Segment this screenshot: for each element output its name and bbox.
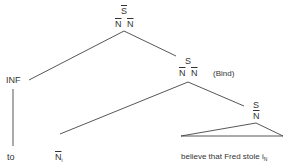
node-s-mid-feature-2: N bbox=[191, 68, 198, 78]
node-s-low-label: S bbox=[253, 100, 259, 110]
leaf-to: to bbox=[7, 152, 15, 162]
branch-root-to-inf bbox=[29, 31, 124, 80]
branch-s-to-s-low bbox=[188, 82, 244, 106]
node-inf-label: INF bbox=[6, 75, 21, 85]
feature-n-bar: N bbox=[253, 111, 260, 121]
node-root-feature-1: N bbox=[115, 19, 122, 29]
feature-n-bar: N bbox=[127, 19, 134, 29]
leaf-clause-subscript: N bbox=[264, 156, 268, 162]
leaf-clause-text: believe that Fred stole i bbox=[181, 152, 264, 161]
bind-annotation: (Bind) bbox=[213, 69, 234, 79]
feature-n-bar: N bbox=[179, 68, 186, 78]
node-s-mid-label: S bbox=[185, 56, 191, 66]
node-s-low-feature: N bbox=[253, 111, 260, 121]
leaf-n-i: Ni bbox=[55, 152, 63, 165]
node-root-label: S bbox=[121, 6, 127, 16]
branch-root-to-s bbox=[124, 31, 176, 56]
branch-s-to-ni bbox=[60, 82, 188, 134]
node-s-mid-feature-1: N bbox=[179, 68, 186, 78]
feature-n-bar: N bbox=[191, 68, 198, 78]
tree-branches bbox=[0, 0, 291, 167]
clause-triangle bbox=[181, 123, 283, 136]
leaf-clause: believe that Fred stole iN bbox=[181, 152, 267, 164]
node-root-feature-2: N bbox=[127, 19, 134, 29]
feature-n-bar: N bbox=[115, 19, 122, 29]
leaf-n-subscript: i bbox=[62, 157, 63, 163]
